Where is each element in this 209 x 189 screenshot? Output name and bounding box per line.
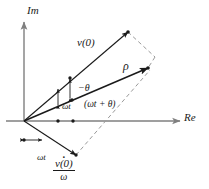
v0-vector-label: v(0) [77, 37, 95, 48]
fraction-numerator: v(0) [53, 158, 75, 170]
omega-t-plus-theta-angle-label: (ωt + θ) [84, 100, 116, 110]
diagram-canvas [0, 0, 209, 189]
omega-t-upper-angle-label: ωt [62, 102, 71, 111]
axis-dot-omega-t [56, 119, 59, 122]
phasor-diagram-figure: Im Re v(0) ρ −θ ωt (ωt + θ) ωt v(0) ω [0, 0, 209, 189]
dashed-corner-to-rho [148, 57, 155, 68]
ray-dot-v0 [68, 76, 71, 79]
omega-t-lower-angle-label: ωt [37, 153, 46, 162]
v0-endpoint-dot [126, 30, 130, 34]
rho-vector [24, 68, 148, 121]
real-axis-label: Re [184, 112, 196, 123]
imaginary-axis-label: Im [27, 5, 39, 16]
vdot-endpoint-dot [74, 153, 77, 156]
fraction-denominator: ω [53, 171, 75, 182]
v-dot-accent: v(0) [55, 158, 73, 169]
axis-dot-omega-t-lower [22, 138, 25, 141]
rho-endpoint-dot [146, 66, 150, 70]
axis-dot-omega-t-theta [71, 119, 74, 122]
vdot-over-omega-label: v(0) ω [53, 158, 75, 182]
dashed-v0-to-corner [128, 32, 155, 57]
rho-vector-label: ρ [123, 60, 129, 72]
vdot-omega-vector [24, 121, 76, 155]
minus-theta-angle-label: −θ [78, 83, 90, 93]
